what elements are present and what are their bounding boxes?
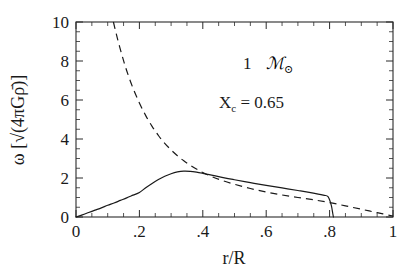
- annotation-xc-symbol: X: [219, 93, 231, 112]
- svg-text:ω [√(4πGρ̄)]: ω [√(4πGρ̄)]: [8, 75, 29, 165]
- x-tick-label: 0: [72, 222, 81, 241]
- y-label-omega: ω: [8, 153, 28, 165]
- y-tick-label: 8: [61, 52, 70, 71]
- y-label-bracket-close: ]: [8, 75, 28, 81]
- svg-text:Xc = 0.65: Xc = 0.65: [219, 93, 284, 114]
- x-tick-label: .2: [133, 222, 146, 241]
- y-label-sqrt-icon: √: [8, 133, 28, 143]
- scientific-plot: 0.2.4.6.81 0246810 r/R ω [√(4πGρ̄)] 1 ℳ⊙…: [0, 0, 413, 274]
- x-axis-label: r/R: [222, 248, 245, 268]
- x-tick-label: .8: [323, 222, 336, 241]
- y-label-inner: (4πGρ̄): [8, 81, 29, 133]
- figure-panel: 0.2.4.6.81 0246810 r/R ω [√(4πGρ̄)] 1 ℳ⊙…: [0, 0, 413, 274]
- y-tick-label: 2: [61, 169, 70, 188]
- x-tick-label: .4: [196, 222, 209, 241]
- y-tick-label: 10: [52, 13, 69, 32]
- y-tick-label: 0: [61, 208, 70, 227]
- annotation-mass-subscript: ⊙: [284, 63, 293, 76]
- y-tick-label: 4: [61, 130, 70, 149]
- annotation-xc-value: 0.65: [254, 93, 284, 112]
- x-tick-label: .6: [260, 222, 273, 241]
- svg-text:1: 1: [243, 54, 252, 73]
- x-tick-label: 1: [389, 222, 398, 241]
- annotation-mass-value: 1: [243, 54, 252, 73]
- annotation-xc: Xc = 0.65: [219, 93, 284, 114]
- annotation-xc-equals: =: [240, 93, 250, 112]
- y-tick-label: 6: [61, 91, 70, 110]
- y-axis-label: ω [√(4πGρ̄)]: [8, 75, 29, 165]
